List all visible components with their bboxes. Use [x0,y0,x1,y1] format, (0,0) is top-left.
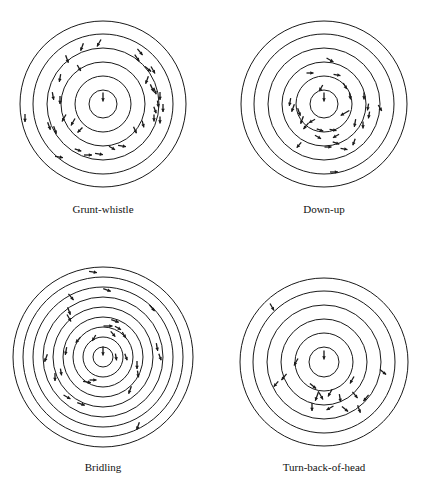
figure-canvas [0,0,422,481]
arrow-icon [109,146,115,150]
arrow-icon [149,305,154,311]
ring [267,305,381,419]
arrow-icon [158,117,162,124]
arrow-icon [23,114,27,122]
ring [13,267,193,447]
arrow-icon [84,153,92,157]
ring [53,307,153,407]
ring [47,48,159,160]
caption-grunt-whistle: Grunt-whistle [23,203,183,215]
arrow-icon [343,83,347,89]
arrow-icon [281,374,286,380]
arrow-icon [118,144,126,148]
arrow-icon [101,93,105,102]
ring [253,291,395,433]
arrow-icon [101,347,105,356]
arrow-icon [97,40,101,47]
arrow-icon [158,354,161,361]
arrow-icon [380,369,386,374]
arrow-icon [59,369,63,376]
arrow-icon [274,381,278,386]
arrow-icon [322,351,326,360]
arrow-icon [137,49,142,55]
arrow-icon [342,406,348,411]
arrow-icon [350,377,354,384]
ring [268,48,380,160]
arrow-icon [135,361,139,369]
arrow-icon [64,347,68,355]
arrow-icon [114,354,118,361]
arrow-icon [89,270,97,274]
caption-turn-back-of-head: Turn-back-of-head [244,461,404,473]
arrow-icon [141,121,144,128]
arrow-icon [152,115,156,122]
arrow-icon [315,391,319,400]
arrow-icon [76,337,80,342]
arrow-icon [291,104,294,112]
arrow-icon [80,43,83,51]
arrow-icon [44,354,47,362]
arrow-icon [333,134,339,138]
arrow-icon [92,335,96,341]
arrow-icon [51,92,55,100]
arrow-icon [310,403,314,411]
arrow-icon [155,343,159,351]
panel-bridling [13,267,193,447]
arrow-icon [95,152,103,156]
arrow-icon [352,139,355,146]
ring [43,297,163,417]
ring [240,278,408,446]
ring [75,76,131,132]
ring [61,62,145,146]
arrow-icon [54,126,57,134]
ring [282,62,366,146]
arrow-icon [161,104,165,112]
arrow-icon [327,58,334,62]
arrow-icon [352,392,357,398]
arrow-icon [322,93,326,102]
arrow-icon [341,111,350,116]
arrow-icon [315,135,321,139]
arrow-icon [297,142,301,147]
arrow-icon [309,119,315,123]
arrow-icon [115,326,121,330]
ring [241,21,407,187]
ring [254,34,394,174]
panel-down-up [241,21,407,187]
arrow-icon [341,147,348,151]
arrow-icon [288,98,292,106]
arrow-icon [75,148,82,151]
arrow-icon [58,74,62,82]
arrow-icon [111,331,115,336]
arrow-icon [333,141,340,144]
arrow-icon [353,119,357,127]
arrow-icon [151,67,155,74]
arrow-icon [319,393,323,400]
panel-grunt-whistle [20,21,186,187]
arrow-icon [124,354,127,361]
arrow-icon [78,128,83,133]
ring [33,34,173,174]
arrow-icon [334,73,341,77]
arrow-icon [64,395,71,399]
arrow-icon [145,76,148,84]
arrow-icon [68,307,71,315]
ring [20,21,186,187]
caption-down-up: Down-up [244,203,404,215]
arrow-icon [366,104,370,111]
panel-turn-back-of-head [240,278,408,446]
arrow-icon [327,406,334,410]
ring [281,319,367,405]
arrow-icon [367,112,371,119]
arrow-icon [153,107,156,114]
ring [295,333,353,391]
arrow-icon [338,394,342,402]
arrow-icon [270,304,274,311]
ring [63,317,143,397]
ring [83,337,123,377]
arrow-icon [307,71,314,75]
caption-bridling: Bridling [23,461,183,473]
arrow-icon [103,289,111,292]
arrow-icon [145,66,151,71]
arrow-icon [90,378,97,382]
